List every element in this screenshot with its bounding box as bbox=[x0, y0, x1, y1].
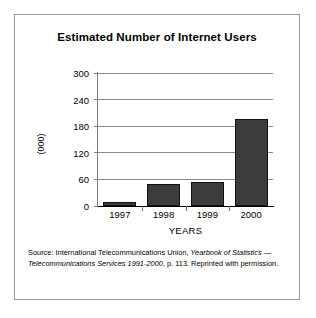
bar-2000 bbox=[235, 119, 268, 206]
y-axis-title: (000) bbox=[36, 114, 46, 174]
source-note-suffix: , p. 113. Reprinted with permission. bbox=[163, 259, 278, 268]
y-axis-tick-label: 120 bbox=[53, 147, 89, 158]
y-axis-tick-mark bbox=[94, 126, 98, 127]
y-axis-tick-label: 0 bbox=[53, 201, 89, 212]
x-axis-tick-label: 1998 bbox=[142, 209, 186, 220]
bar-1999 bbox=[191, 182, 224, 206]
x-axis-tick-label: 1997 bbox=[98, 209, 142, 220]
plot-area bbox=[98, 73, 273, 206]
y-axis-tick-label: 180 bbox=[53, 121, 89, 132]
x-axis-tick-labels: 1997199819992000 bbox=[98, 209, 273, 223]
y-axis-tick-label: 240 bbox=[53, 94, 89, 105]
y-axis-tick-mark bbox=[94, 206, 98, 207]
x-axis-tick-label: 1999 bbox=[186, 209, 230, 220]
y-axis-tick-mark bbox=[94, 179, 98, 180]
y-axis-tick-label: 60 bbox=[53, 174, 89, 185]
source-note-prefix: Source: International Telecommunications… bbox=[28, 248, 191, 257]
x-axis-tick-label: 2000 bbox=[229, 209, 273, 220]
source-note: Source: International Telecommunications… bbox=[28, 248, 286, 269]
y-axis-tick-labels: 060120180240300 bbox=[53, 67, 89, 207]
figure-frame: Estimated Number of Internet Users (000)… bbox=[14, 14, 300, 300]
bar-1997 bbox=[103, 202, 136, 206]
y-axis-tick-label: 300 bbox=[53, 68, 89, 79]
x-axis-title: YEARS bbox=[98, 225, 273, 236]
gridline bbox=[98, 73, 273, 74]
bar-1998 bbox=[147, 184, 180, 206]
y-axis-spine bbox=[97, 72, 98, 207]
gridline bbox=[98, 99, 273, 100]
y-axis-tick-mark bbox=[94, 99, 98, 100]
y-axis-tick-mark bbox=[94, 73, 98, 74]
y-axis-tick-mark bbox=[94, 152, 98, 153]
